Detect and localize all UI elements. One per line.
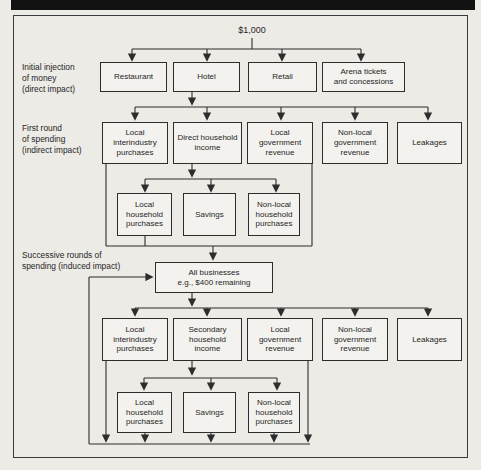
node-retail: Retail xyxy=(248,62,317,92)
node-non-local-household-1: Non-local household purchases xyxy=(248,193,300,236)
node-leakages-1: Leakages xyxy=(397,122,462,164)
label-induced-impact: Successive rounds of spending (induced i… xyxy=(22,250,120,272)
node-direct-household-income: Direct household income xyxy=(173,122,242,164)
node-hotel: Hotel xyxy=(173,62,240,92)
connector-plain xyxy=(89,38,428,444)
node-local-govt-revenue-2: Local government revenue xyxy=(247,318,313,361)
node-leakages-2: Leakages xyxy=(397,318,462,361)
node-savings-1: Savings xyxy=(183,193,236,236)
node-local-interindustry-1: Local interindustry purchases xyxy=(102,122,168,164)
node-local-household-1: Local household purchases xyxy=(117,193,172,236)
node-arena-tickets: Arena tickets and concessions xyxy=(322,62,405,92)
node-local-govt-revenue-1: Local government revenue xyxy=(247,122,313,164)
node-savings-2: Savings xyxy=(183,392,236,433)
node-non-local-household-2: Non-local household purchases xyxy=(248,392,300,433)
node-all-businesses: All businesses e.g., $400 remaining xyxy=(155,262,273,293)
node-local-interindustry-2: Local interindustry purchases xyxy=(102,318,168,361)
label-indirect-impact: First round of spending (indirect impact… xyxy=(22,123,82,156)
node-non-local-govt-revenue-1: Non-local government revenue xyxy=(322,122,388,164)
node-non-local-govt-revenue-2: Non-local government revenue xyxy=(322,318,388,361)
node-secondary-household-income: Secondary household income xyxy=(173,318,242,361)
node-restaurant: Restaurant xyxy=(100,62,167,92)
node-local-household-2: Local household purchases xyxy=(117,392,172,433)
label-direct-impact: Initial injection of money (direct impac… xyxy=(22,62,75,95)
figure-page: $1,000 Initial injection of money (direc… xyxy=(0,0,481,470)
label-amount: $1,000 xyxy=(228,25,276,35)
